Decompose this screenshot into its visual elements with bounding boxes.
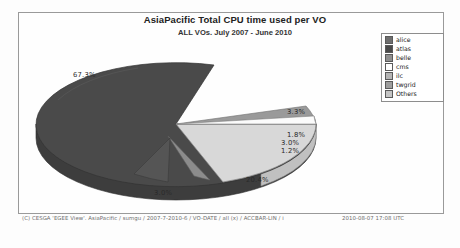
- legend-swatch-icon-ilc: [385, 72, 393, 80]
- pie-chart-image: AsiaPacific Total CPU time used per VO A…: [0, 0, 460, 248]
- slice-label-cms: 3.0%: [281, 139, 299, 147]
- legend-item-alice[interactable]: alice: [385, 36, 441, 45]
- legend-label-ilc: ilc: [396, 72, 403, 80]
- legend-label-twgrid: twgrid: [396, 81, 416, 89]
- legend-swatch-icon-belle: [385, 54, 393, 62]
- legend-swatch-icon-twgrid: [385, 81, 393, 89]
- chart-title-block: AsiaPacific Total CPU time used per VO A…: [120, 14, 350, 38]
- legend-label-cms: cms: [396, 63, 409, 71]
- legend-label-atlas: atlas: [396, 45, 411, 53]
- legend-swatch-icon-others: [385, 90, 393, 98]
- legend-label-others: Others: [396, 90, 417, 98]
- legend-swatch-icon-cms: [385, 63, 393, 71]
- pie-graphic: [18, 40, 348, 205]
- chart-footer-attribution: (C) CESGA 'EGEE View'. AsiaPacific / sum…: [22, 215, 284, 221]
- chart-subtitle: ALL VOs. July 2007 - June 2010: [120, 27, 350, 38]
- legend-item-twgrid[interactable]: twgrid: [385, 81, 441, 90]
- legend-swatch-icon-atlas: [385, 45, 393, 53]
- legend-item-ilc[interactable]: ilc: [385, 72, 441, 81]
- pie-svg: [18, 40, 348, 205]
- slice-label-twgrid: 1.2%: [281, 147, 299, 155]
- legend-item-others[interactable]: Others: [385, 90, 441, 99]
- legend-item-belle[interactable]: belle: [385, 54, 441, 63]
- legend-item-cms[interactable]: cms: [385, 63, 441, 72]
- legend-item-atlas[interactable]: atlas: [385, 45, 441, 54]
- chart-title: AsiaPacific Total CPU time used per VO: [120, 14, 350, 26]
- slice-label-belle: 3.3%: [287, 108, 305, 116]
- slice-label-exploded: 3.0%: [154, 189, 172, 197]
- legend-label-alice: alice: [396, 36, 410, 44]
- slice-label-ilc: 1.8%: [287, 131, 305, 139]
- legend-swatch-icon-alice: [385, 36, 393, 44]
- slice-label-alice: 67.3%: [73, 71, 96, 79]
- legend-label-belle: belle: [396, 54, 411, 62]
- chart-footer-timestamp: 2010-08-07 17:08 UTC: [342, 215, 404, 221]
- chart-legend: alice atlas belle cms ilc twgrid Others: [381, 33, 444, 102]
- slice-label-others: 20.4%: [246, 176, 269, 184]
